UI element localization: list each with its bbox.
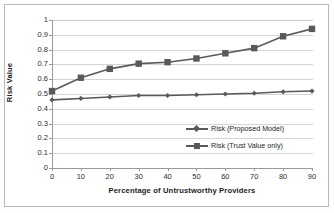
legend-item-trust-value-only[interactable]: Risk (Trust Value only) xyxy=(186,137,306,154)
gridline xyxy=(53,50,313,51)
y-axis-tick-label: 0.1 xyxy=(24,148,48,157)
y-axis-tick-label: 0.2 xyxy=(24,133,48,142)
x-axis-tick-mark xyxy=(225,168,226,171)
diamond-marker-icon xyxy=(186,124,208,133)
x-axis-tick-label: 0 xyxy=(39,172,65,181)
square-marker-icon xyxy=(186,141,208,150)
x-axis-tick-mark xyxy=(196,168,197,171)
x-axis-tick-mark xyxy=(312,168,313,171)
legend-item-label: Risk (Trust Value only) xyxy=(211,141,283,150)
gridline xyxy=(53,35,313,36)
y-axis-tick-label: 1 xyxy=(24,15,48,24)
gridline xyxy=(53,64,313,65)
x-axis-tick-label: 40 xyxy=(155,172,181,181)
y-axis-tick-label: 0.6 xyxy=(24,74,48,83)
x-axis-tick-mark xyxy=(110,168,111,171)
legend-item-label: Risk (Proposed Model) xyxy=(211,124,284,133)
y-axis-tick-label: 0 xyxy=(24,163,48,172)
y-axis-title: Risk Value xyxy=(5,53,14,113)
y-axis-tick-label: 0.3 xyxy=(24,119,48,128)
legend-item-proposed-model[interactable]: Risk (Proposed Model) xyxy=(186,120,306,137)
x-axis-tick-mark xyxy=(254,168,255,171)
gridline xyxy=(53,94,313,95)
chart-legend: Risk (Proposed Model) Risk (Trust Value … xyxy=(186,120,306,154)
x-axis-title: Percentage of Untrustworthy Providers xyxy=(52,186,312,195)
x-axis-tick-mark xyxy=(52,168,53,171)
gridline xyxy=(53,79,313,80)
x-axis-tick-mark xyxy=(81,168,82,171)
chart-figure: 00.10.20.30.40.50.60.70.80.91 0102030405… xyxy=(0,0,334,213)
x-axis-tick-label: 20 xyxy=(97,172,123,181)
y-axis-tick-label: 0.8 xyxy=(24,45,48,54)
gridline xyxy=(53,20,313,21)
y-axis-tick-label: 0.9 xyxy=(24,30,48,39)
y-axis-tick-label: 0.7 xyxy=(24,59,48,68)
x-axis-tick-label: 70 xyxy=(241,172,267,181)
x-axis-tick-label: 80 xyxy=(270,172,296,181)
gridline xyxy=(53,109,313,110)
x-axis-tick-label: 90 xyxy=(299,172,325,181)
x-axis-tick-label: 10 xyxy=(68,172,94,181)
x-axis-tick-mark xyxy=(168,168,169,171)
x-axis-tick-mark xyxy=(139,168,140,171)
y-axis-tick-label: 0.5 xyxy=(24,89,48,98)
y-axis-tick-label: 0.4 xyxy=(24,104,48,113)
x-axis-tick-label: 50 xyxy=(183,172,209,181)
x-axis-tick-mark xyxy=(283,168,284,171)
x-axis-tick-label: 60 xyxy=(212,172,238,181)
x-axis-tick-label: 30 xyxy=(126,172,152,181)
